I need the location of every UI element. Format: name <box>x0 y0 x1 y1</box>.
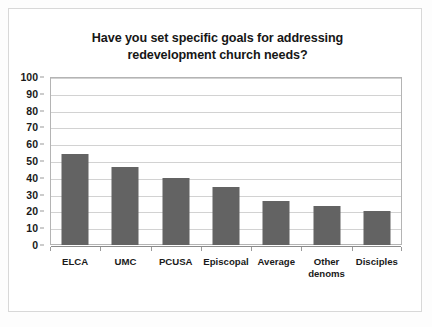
bar[interactable] <box>313 206 340 245</box>
x-tick-mark <box>401 247 402 251</box>
bar-slot <box>50 77 100 245</box>
x-axis-label-umc: UMC <box>114 256 136 268</box>
bar-slot <box>201 77 251 245</box>
y-tick-mark-70 <box>40 127 44 128</box>
y-tick-mark-100 <box>40 77 44 78</box>
y-tick-mark-0 <box>40 245 44 246</box>
x-axis-label-average: Average <box>258 256 296 268</box>
bar-slot <box>100 77 150 245</box>
y-tick-mark-20 <box>40 211 44 212</box>
y-tick-mark-40 <box>40 177 44 178</box>
bar[interactable] <box>263 201 290 245</box>
bar-slot <box>151 77 201 245</box>
y-tick-label-80: 80 <box>26 105 38 117</box>
x-tick-mark <box>251 247 252 251</box>
chart-figure: Have you set specific goals for addressi… <box>0 0 432 327</box>
y-tick-mark-80 <box>40 110 44 111</box>
y-tick-label-10: 10 <box>26 222 38 234</box>
bar-slot <box>352 77 402 245</box>
x-tick-mark <box>50 247 51 251</box>
chart-title-line-1: Have you set specific goals for addressi… <box>30 30 405 47</box>
y-tick-label-30: 30 <box>26 189 38 201</box>
x-axis-label-elca: ELCA <box>62 256 88 268</box>
y-tick-label-20: 20 <box>26 205 38 217</box>
x-axis-label-pcusa: PCUSA <box>159 256 193 268</box>
bar-slot <box>251 77 301 245</box>
bar[interactable] <box>212 187 239 245</box>
y-tick-mark-30 <box>40 194 44 195</box>
x-axis: ELCAUMCPCUSAEpiscopalAverageOther denoms… <box>50 247 402 287</box>
bar[interactable] <box>162 178 189 245</box>
x-axis-label-episcopal: Episcopal <box>203 256 248 268</box>
y-tick-label-70: 70 <box>26 121 38 133</box>
x-tick-mark <box>151 247 152 251</box>
bar-slot <box>301 77 351 245</box>
x-axis-label-disciples: Disciples <box>356 256 398 268</box>
x-axis-label-other-denoms: Other denoms <box>308 256 345 279</box>
y-tick-label-50: 50 <box>26 155 38 167</box>
y-tick-label-40: 40 <box>26 172 38 184</box>
y-tick-mark-10 <box>40 228 44 229</box>
y-tick-label-60: 60 <box>26 138 38 150</box>
chart-title-line-2: redevelopment church needs? <box>30 47 405 64</box>
x-tick-mark <box>301 247 302 251</box>
chart-title: Have you set specific goals for addressi… <box>30 30 405 64</box>
y-tick-mark-60 <box>40 144 44 145</box>
bars-layer <box>50 77 402 245</box>
y-tick-label-0: 0 <box>32 239 38 251</box>
y-axis: 1009080706050403020100 <box>0 77 44 245</box>
bar[interactable] <box>112 167 139 245</box>
y-tick-label-100: 100 <box>20 71 38 83</box>
x-tick-mark <box>201 247 202 251</box>
bar[interactable] <box>363 211 390 245</box>
x-tick-mark <box>352 247 353 251</box>
bar[interactable] <box>62 154 89 245</box>
y-tick-mark-90 <box>40 93 44 94</box>
y-tick-label-90: 90 <box>26 88 38 100</box>
x-tick-mark <box>100 247 101 251</box>
y-tick-mark-50 <box>40 161 44 162</box>
